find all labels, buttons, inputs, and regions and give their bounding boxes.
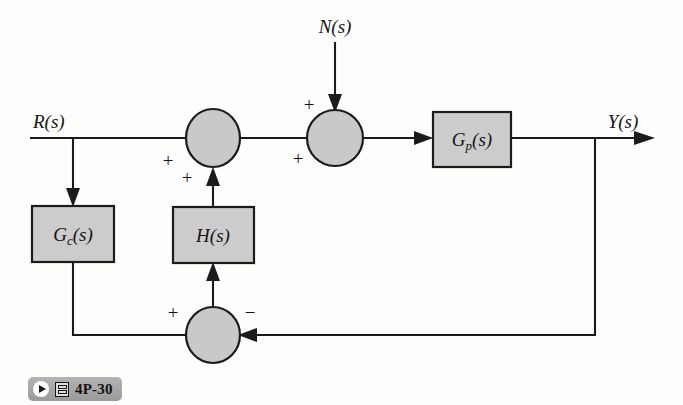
sum2-sign-left: +: [293, 148, 304, 169]
block-gp-label: Gp(s): [452, 129, 492, 153]
figure-caption-label: 4P-30: [75, 381, 113, 398]
sum3-sign-left: +: [168, 302, 179, 323]
arrowhead-gc-top: [66, 188, 80, 207]
block-diagram-canvas: Gc(s) H(s) Gp(s) + + + + + − R(s) N(s): [0, 0, 683, 405]
summing-junction-3[interactable]: [186, 307, 240, 363]
media-grid-icon[interactable]: [55, 382, 69, 397]
sum2-sign-top: +: [304, 94, 315, 115]
block-h-label: H(s): [195, 225, 230, 247]
summing-junction-1[interactable]: [186, 109, 240, 167]
figure-caption-badge[interactable]: 4P-30: [28, 377, 122, 401]
summing-junction-2[interactable]: [307, 110, 363, 166]
block-diagram-figure: Gc(s) H(s) Gp(s) + + + + + − R(s) N(s): [0, 0, 683, 405]
play-icon[interactable]: [33, 381, 49, 397]
block-gc-label: Gc(s): [53, 224, 93, 248]
arrowhead-sum1-bottom: [206, 167, 220, 186]
signal-label-disturbance: N(s): [318, 16, 352, 38]
wire-gc-to-sum3: [73, 262, 203, 335]
sum1-sign-left: +: [163, 150, 174, 171]
sum3-sign-right: −: [245, 302, 256, 323]
signal-label-output: Y(s): [608, 111, 639, 133]
arrowhead-output: [634, 131, 655, 145]
sum1-sign-bottom: +: [182, 167, 193, 188]
arrowhead-gp-left: [414, 131, 433, 145]
arrowhead-h-bottom: [206, 262, 220, 281]
signal-label-input: R(s): [32, 111, 65, 133]
